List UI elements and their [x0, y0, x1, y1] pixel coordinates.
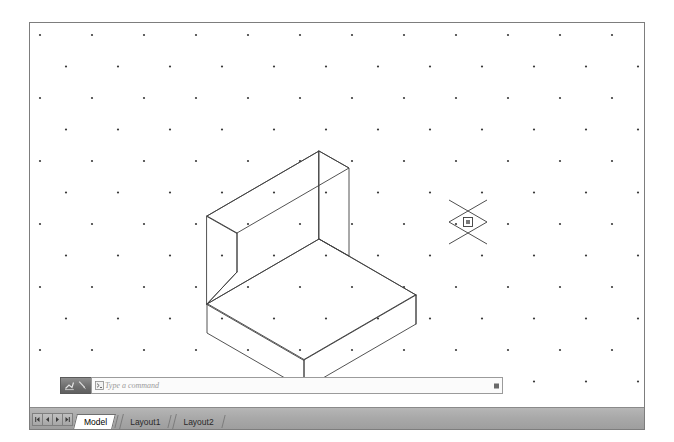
command-bar-toolbar[interactable]: [60, 377, 91, 394]
drawing-canvas[interactable]: [30, 23, 644, 407]
tab-separator: [221, 415, 225, 428]
tab-label: Layout1: [130, 417, 160, 427]
tab-layout2[interactable]: Layout2: [174, 414, 220, 429]
layout-tab-strip: Model Layout1 Layout2: [75, 408, 228, 429]
first-icon: [34, 416, 41, 423]
command-bar[interactable]: [60, 377, 503, 394]
isometric-crosshair-cursor: [30, 23, 644, 407]
tab-label: Layout2: [183, 417, 213, 427]
command-input-container[interactable]: [91, 377, 503, 394]
status-bar: Model Layout1 Layout2: [30, 407, 644, 429]
previous-icon: [44, 416, 51, 423]
last-layout-button[interactable]: [62, 413, 73, 426]
tab-separator: [168, 415, 172, 428]
application-window: Model Layout1 Layout2: [29, 22, 645, 430]
command-input[interactable]: [105, 380, 502, 391]
last-icon: [64, 416, 71, 423]
next-icon: [54, 416, 61, 423]
tab-layout1[interactable]: Layout1: [121, 414, 167, 429]
pan-tool-icon[interactable]: [64, 380, 75, 391]
command-prompt-icon: [95, 381, 104, 390]
tab-label: Model: [84, 417, 107, 427]
tab-model[interactable]: Model: [75, 414, 114, 429]
dropdown-marker-icon[interactable]: [494, 383, 499, 388]
zoom-tool-icon[interactable]: [77, 380, 88, 391]
layout-navigation-buttons: [32, 412, 72, 426]
